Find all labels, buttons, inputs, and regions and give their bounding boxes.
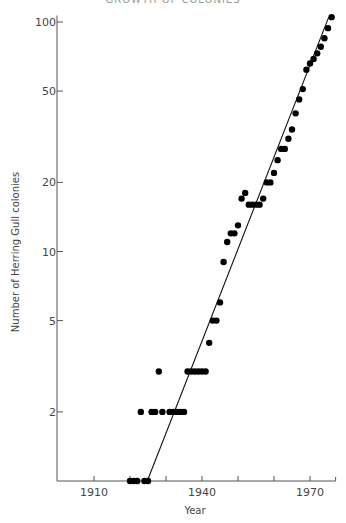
data-point [181, 409, 187, 415]
data-point [206, 340, 212, 346]
data-point [328, 14, 334, 20]
data-point [296, 96, 302, 102]
data-point [303, 66, 309, 72]
data-point [156, 368, 162, 374]
data-point [242, 190, 248, 196]
data-point [292, 110, 298, 116]
data-point [285, 136, 291, 142]
data-point [267, 179, 273, 185]
data-point [289, 126, 295, 132]
data-point [138, 409, 144, 415]
data-point [310, 56, 316, 62]
data-point [224, 239, 230, 245]
data-point [260, 195, 266, 201]
data-point [321, 35, 327, 41]
data-point [271, 170, 277, 176]
y-tick-label: 10 [42, 246, 56, 259]
x-tick-label: 1940 [188, 486, 216, 499]
data-point [213, 317, 219, 323]
x-tick-label: 1970 [296, 486, 324, 499]
data-point [220, 259, 226, 265]
data-point [238, 195, 244, 201]
y-tick-label: 5 [49, 315, 56, 328]
data-point [318, 44, 324, 50]
data-point [152, 409, 158, 415]
data-point [274, 157, 280, 163]
y-tick-label: 20 [42, 176, 56, 189]
data-point [256, 201, 262, 207]
data-point [282, 146, 288, 152]
colony-growth-chart: 19101940197025102050100 Year Number of H… [0, 0, 346, 523]
data-point [159, 409, 165, 415]
x-axis-title: Year [183, 505, 206, 516]
data-point [231, 230, 237, 236]
x-tick-label: 1910 [80, 486, 108, 499]
data-points [127, 14, 335, 484]
data-point [314, 50, 320, 56]
data-point [134, 478, 140, 484]
axes: 19101940197025102050100 [35, 16, 336, 499]
data-point [202, 368, 208, 374]
data-point [217, 299, 223, 305]
y-axis-title: Number of Herring Gull colonies [10, 172, 21, 332]
y-tick-label: 2 [49, 406, 56, 419]
data-point [145, 478, 151, 484]
y-tick-label: 100 [35, 16, 56, 29]
data-point [325, 25, 331, 31]
data-point [300, 86, 306, 92]
data-point [235, 222, 241, 228]
y-tick-label: 50 [42, 85, 56, 98]
